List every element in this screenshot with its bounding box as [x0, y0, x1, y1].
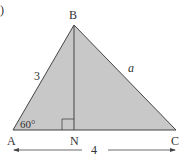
vertex-label-C: C — [171, 134, 179, 148]
base-label-AC: 4 — [91, 143, 97, 157]
arrowhead-right-icon — [170, 148, 176, 152]
vertex-label-A: A — [7, 134, 16, 148]
angle-label-A: 60° — [20, 118, 35, 130]
diagram-canvas: ) B A N C 3 a 60° 4 — [0, 0, 187, 159]
vertex-label-N: N — [70, 134, 79, 148]
arrowhead-left-icon — [13, 148, 19, 152]
triangle-diagram: ) B A N C 3 a 60° 4 — [0, 0, 187, 159]
vertex-label-B: B — [69, 8, 77, 22]
side-label-AB: 3 — [34, 69, 40, 83]
side-label-BC: a — [128, 61, 134, 75]
fragment-glyph: ) — [0, 3, 4, 17]
